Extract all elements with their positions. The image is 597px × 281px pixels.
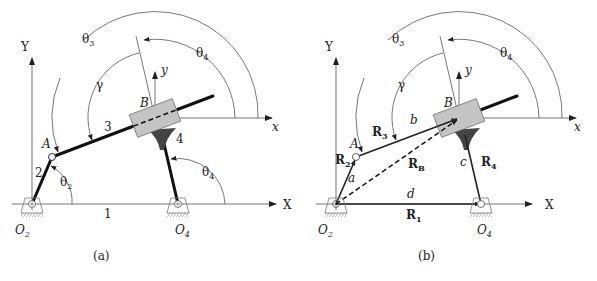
O2-label-b: O2 bbox=[318, 223, 333, 239]
caption-b: (b) bbox=[418, 249, 435, 263]
x-local-label-a: x bbox=[272, 120, 279, 134]
point-A-label-a: A bbox=[41, 137, 51, 151]
panel-b: Y X x y θ3 θ4 γ bbox=[316, 12, 581, 263]
fourbar-slider-diagram: Y X x y θ3 θ4 γ θ2 θ4 bbox=[0, 0, 597, 281]
y-local-label-a: y bbox=[160, 63, 168, 77]
link-4-label-a: 4 bbox=[176, 132, 184, 146]
O4-label-a: O4 bbox=[175, 223, 190, 239]
O4-label-b: O4 bbox=[477, 223, 492, 239]
length-c-label: c bbox=[460, 155, 467, 169]
theta4-bottom-label-a: θ4 bbox=[202, 165, 214, 181]
link-3-a bbox=[52, 96, 213, 157]
length-d-label: d bbox=[407, 187, 415, 201]
ground-O4-b bbox=[470, 198, 492, 217]
theta4-arc-bottom-a bbox=[171, 158, 225, 204]
R1-label: R1 bbox=[406, 208, 422, 224]
point-B-label-a: B bbox=[139, 96, 149, 110]
R3-label: R3 bbox=[372, 125, 388, 141]
Y-axis-label-b: Y bbox=[324, 40, 334, 54]
ground-O4-a bbox=[167, 198, 189, 217]
theta4-label-b: θ4 bbox=[500, 46, 512, 62]
link-2-label-a: 2 bbox=[35, 166, 43, 180]
O2-label-a: O2 bbox=[15, 223, 30, 239]
theta3-label-b: θ3 bbox=[392, 32, 404, 48]
R2-label: R2 bbox=[335, 153, 351, 169]
x-local-label-b: x bbox=[574, 120, 581, 134]
X-axis-label-a: X bbox=[283, 198, 292, 212]
y-local-label-b: y bbox=[464, 63, 472, 77]
link-1-label-a: 1 bbox=[104, 207, 112, 221]
gamma-label-a: γ bbox=[96, 78, 103, 92]
pin-A-b bbox=[353, 154, 360, 161]
link-3-label-a: 3 bbox=[104, 120, 112, 134]
link-2-a bbox=[32, 157, 52, 204]
gamma-label-b: γ bbox=[398, 78, 405, 92]
X-axis-label-b: X bbox=[545, 198, 554, 212]
theta3-arc-a bbox=[52, 78, 60, 152]
caption-a: (a) bbox=[93, 249, 110, 263]
theta2-label-a: θ2 bbox=[60, 175, 72, 191]
ground-O2-a bbox=[21, 198, 43, 217]
ground-O2-b bbox=[325, 198, 347, 217]
length-b-label: b bbox=[410, 113, 418, 127]
point-B-label-b: B bbox=[443, 96, 453, 110]
point-A-label-b: A bbox=[349, 137, 359, 151]
theta3-label-a: θ3 bbox=[82, 32, 94, 48]
RB-label: RB bbox=[408, 157, 425, 173]
vector-R4 bbox=[465, 135, 481, 204]
length-a-label: a bbox=[348, 171, 355, 185]
theta4-top-label-a: θ4 bbox=[196, 46, 208, 62]
panel-a: Y X x y θ3 θ4 γ θ2 θ4 bbox=[12, 12, 292, 263]
pin-A-a bbox=[49, 154, 56, 161]
Y-axis-label-a: Y bbox=[20, 40, 30, 54]
R4-label: R4 bbox=[481, 155, 497, 171]
